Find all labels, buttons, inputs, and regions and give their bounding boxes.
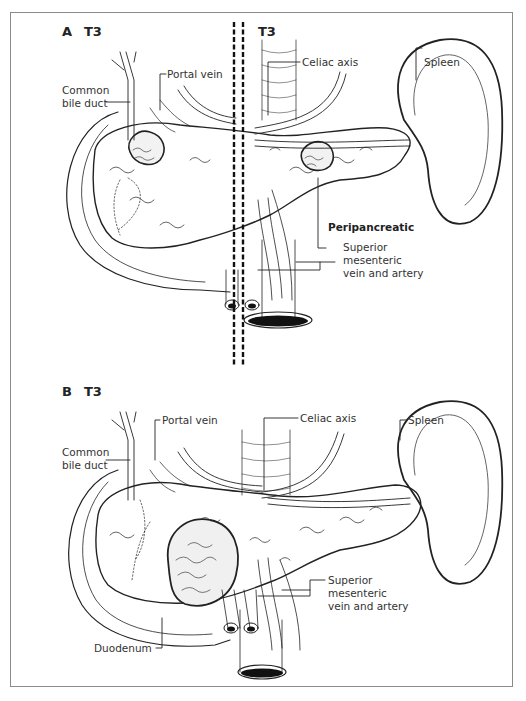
panel-b-leaders — [106, 418, 406, 648]
label-b-celiac-axis: Celiac axis — [300, 412, 356, 425]
panel-b-stage: T3 — [84, 384, 102, 399]
label-b-smv-3: vein and artery — [328, 600, 409, 613]
panel-b-letter: B — [62, 384, 72, 399]
panel-a-stage-left: T3 — [84, 24, 102, 39]
label-b-smv-2: mesenteric — [328, 587, 387, 600]
panel-a-drawing — [67, 39, 503, 328]
label-b-smv-1: Superior — [328, 574, 372, 587]
label-a-common-bile-duct-2: bile duct — [62, 97, 108, 110]
panel-a-letter: A — [62, 24, 72, 39]
label-a-peripancreatic: Peripancreatic — [328, 221, 414, 234]
label-b-common-bile-duct-1: Common — [62, 446, 109, 459]
panel-b-drawing — [69, 401, 503, 679]
label-a-portal-vein: Portal vein — [167, 68, 223, 81]
panel-a-divider — [234, 22, 243, 366]
label-b-duodenum: Duodenum — [94, 642, 152, 655]
label-a-smv-2: mesenteric — [343, 254, 402, 267]
label-a-common-bile-duct-1: Common — [62, 84, 109, 97]
label-a-smv-3: vein and artery — [343, 267, 424, 280]
panel-a-stage-right: T3 — [258, 24, 276, 39]
label-b-common-bile-duct-2: bile duct — [62, 459, 108, 472]
label-a-celiac-axis: Celiac axis — [302, 56, 358, 69]
label-a-spleen: Spleen — [424, 56, 460, 69]
label-a-smv-1: Superior — [343, 241, 387, 254]
label-b-spleen: Spleen — [408, 414, 444, 427]
label-b-portal-vein: Portal vein — [162, 414, 218, 427]
